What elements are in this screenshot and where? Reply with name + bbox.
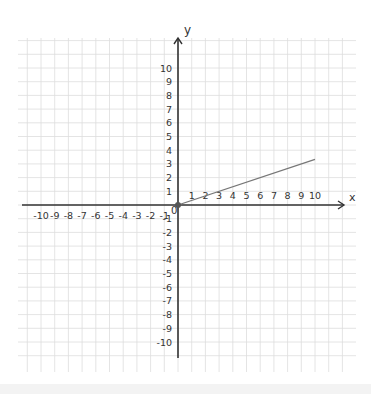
y-tick-label: 7 (166, 104, 172, 115)
x-tick-label: 5 (243, 190, 249, 201)
y-tick-label: -9 (163, 323, 172, 334)
y-tick-label: 8 (166, 90, 172, 101)
footer-band (0, 384, 371, 394)
y-tick-label: 2 (166, 172, 172, 183)
x-tick-label: 8 (285, 190, 291, 201)
x-tick-label: -7 (77, 210, 86, 221)
x-tick-label: -6 (91, 210, 100, 221)
x-axis-label: x (349, 191, 356, 204)
y-tick-label: -5 (163, 268, 172, 279)
y-tick-label: 4 (166, 145, 172, 156)
y-tick-label: -3 (163, 241, 172, 252)
y-tick-label: -6 (163, 282, 172, 293)
y-tick-label: 1 (166, 186, 172, 197)
y-tick-label: 9 (166, 76, 172, 87)
x-tick-label: -9 (50, 210, 59, 221)
x-tick-label: 7 (271, 190, 277, 201)
x-tick-label: 10 (309, 190, 321, 201)
x-tick-label: 6 (257, 190, 263, 201)
x-tick-label: -5 (105, 210, 114, 221)
x-tick-label: -3 (132, 210, 141, 221)
y-tick-label: 10 (160, 63, 172, 74)
x-tick-label: 9 (298, 190, 304, 201)
y-tick-label: 3 (166, 158, 172, 169)
x-tick-label: 4 (230, 190, 236, 201)
y-tick-label: -4 (163, 254, 172, 265)
coordinate-plane: x y -10-9-8-7-6-5-4-3-2-112345678910 -10… (0, 0, 371, 394)
y-axis-label: y (184, 23, 191, 37)
y-tick-label: -10 (156, 337, 172, 348)
y-tick-label: -7 (163, 295, 172, 306)
x-tick-label: -8 (64, 210, 73, 221)
x-tick-label: -10 (33, 210, 49, 221)
y-tick-label: 6 (166, 117, 172, 128)
x-tick-label: -4 (118, 210, 127, 221)
origin-label: 0 (171, 205, 177, 216)
y-tick-label: -2 (163, 227, 172, 238)
y-tick-label: 5 (166, 131, 172, 142)
x-tick-label: -2 (146, 210, 155, 221)
y-tick-label: -8 (163, 309, 172, 320)
